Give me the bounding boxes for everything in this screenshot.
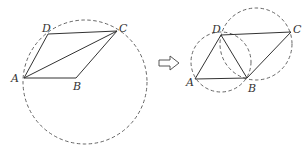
right-figure: A B C D xyxy=(185,8,302,95)
label-a: A xyxy=(10,72,19,85)
left-figure: A B C D xyxy=(10,20,147,144)
label-d: D xyxy=(211,23,221,36)
label-b: B xyxy=(247,82,256,95)
geometry-diagram: A B C D A B C D xyxy=(0,0,304,151)
implies-arrow-icon xyxy=(159,56,179,70)
diagonal-bd xyxy=(221,35,247,78)
circumcircle-abc xyxy=(23,20,147,144)
label-a: A xyxy=(185,76,194,89)
label-b: B xyxy=(72,80,81,93)
label-d: D xyxy=(41,22,51,35)
label-c: C xyxy=(293,23,302,36)
diagonal-ac xyxy=(24,31,117,78)
circle-abd xyxy=(191,32,251,92)
label-c: C xyxy=(119,22,128,35)
